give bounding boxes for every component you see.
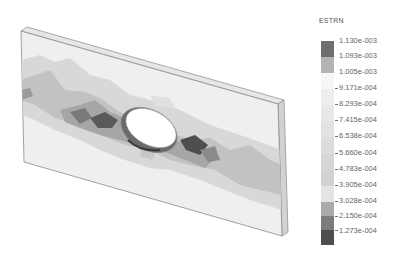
legend-label: 4.783e-004 [339, 165, 377, 173]
legend-label: 2.150e-004 [339, 212, 377, 220]
legend-label: 9.171e-004 [339, 84, 377, 92]
legend-swatch-9 [321, 170, 334, 186]
legend-tick [335, 153, 338, 154]
legend-label: 5.660e-004 [339, 149, 377, 157]
legend-title: ESTRN [319, 17, 344, 24]
legend-label: 6.538e-004 [339, 132, 377, 140]
legend-label: 1.130e-003 [339, 37, 377, 45]
legend-tick [335, 104, 338, 105]
legend-swatch-4 [321, 89, 334, 105]
legend-swatch-8 [321, 154, 334, 170]
legend-label: 1.093e-003 [339, 52, 377, 60]
legend-tick [335, 185, 338, 186]
legend-swatch-6 [321, 121, 334, 137]
legend-swatch-10 [321, 186, 334, 202]
legend-tick [335, 230, 338, 231]
model-viewport[interactable] [0, 0, 300, 255]
legend-label: 8.293e-004 [339, 100, 377, 108]
legend-label: 1.273e-004 [339, 227, 377, 235]
legend-swatch-13 [321, 230, 334, 245]
legend-label: 1.005e-003 [339, 68, 377, 76]
legend-tick [335, 201, 338, 202]
legend-swatch-7 [321, 137, 334, 154]
legend-tick [335, 88, 338, 89]
legend-swatch-5 [321, 105, 334, 121]
legend-tick [335, 136, 338, 137]
contour-legend: ESTRN 1.130e-003 1.093e-003 1.005e-003 9… [300, 0, 401, 255]
legend-tick [335, 169, 338, 170]
fea-plate-contour-plot [0, 0, 300, 255]
legend-label: 3.028e-004 [339, 197, 377, 205]
legend-swatch-12 [321, 216, 334, 230]
legend-swatch-1 [321, 41, 334, 57]
legend-label: 7.415e-004 [339, 116, 377, 124]
legend-label: 3.905e-004 [339, 181, 377, 189]
legend-swatch-2 [321, 57, 334, 73]
legend-tick [335, 120, 338, 121]
legend-swatch-11 [321, 202, 334, 216]
legend-swatch-3 [321, 73, 334, 89]
legend-tick [335, 216, 338, 217]
